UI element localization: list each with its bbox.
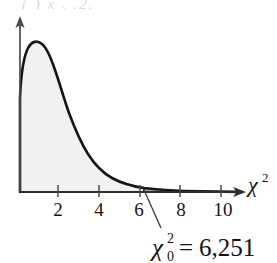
critical-label-subscript: 0 — [167, 249, 174, 263]
critical-value-leader-line — [144, 190, 161, 228]
x-tick-label-4: 4 — [94, 199, 104, 220]
critical-label-superscript: 2 — [167, 231, 174, 246]
critical-label-equals: = — [179, 234, 193, 261]
x-axis-label-chi: χ — [246, 172, 259, 197]
critical-label-value: 6,251 — [199, 234, 255, 261]
x-axis-label-superscript: 2 — [262, 170, 269, 185]
x-tick-label-8: 8 — [176, 199, 186, 220]
x-tick-label-6: 6 — [134, 199, 144, 220]
critical-label-chi: χ — [150, 234, 164, 261]
chi-square-distribution-figure: ( ) x , .2. 2 4 — [0, 0, 277, 263]
x-tick-label-2: 2 — [53, 199, 63, 220]
x-tick-label-10: 10 — [214, 199, 233, 220]
chi-square-plot-svg: 2 4 6 8 10 χ 2 χ 0 2 = 6,251 — [0, 0, 277, 263]
